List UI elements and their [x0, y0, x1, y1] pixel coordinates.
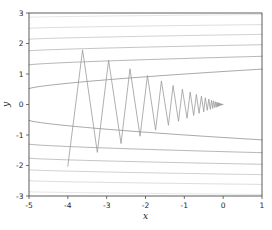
y-tick-label: 1: [19, 70, 24, 79]
x-tick-label: -5: [25, 201, 33, 210]
y-tick-label: 0: [19, 100, 24, 109]
plot-background: [29, 13, 262, 196]
x-tick-label: -1: [181, 201, 189, 210]
x-tick-label: -4: [64, 201, 72, 210]
y-tick-label: -3: [16, 192, 24, 201]
x-tick-label: 0: [221, 201, 226, 210]
figure-canvas: -5-4-3-2-101 -3-2-10123 x y: [0, 0, 272, 230]
x-axis-label: x: [143, 211, 148, 221]
y-tick-label: 2: [19, 39, 24, 48]
y-tick-label: -2: [16, 161, 24, 170]
x-tick-label: -2: [142, 201, 150, 210]
y-axis-label: y: [1, 101, 11, 108]
x-tick-label: 1: [260, 201, 265, 210]
contour-plot: -5-4-3-2-101 -3-2-10123 x y: [0, 0, 272, 230]
y-tick-label: 3: [19, 9, 24, 18]
x-axis-ticks: -5-4-3-2-101: [25, 196, 264, 210]
y-tick-label: -1: [16, 131, 24, 140]
x-tick-label: -3: [103, 201, 111, 210]
y-axis-ticks: -3-2-10123: [16, 9, 29, 201]
